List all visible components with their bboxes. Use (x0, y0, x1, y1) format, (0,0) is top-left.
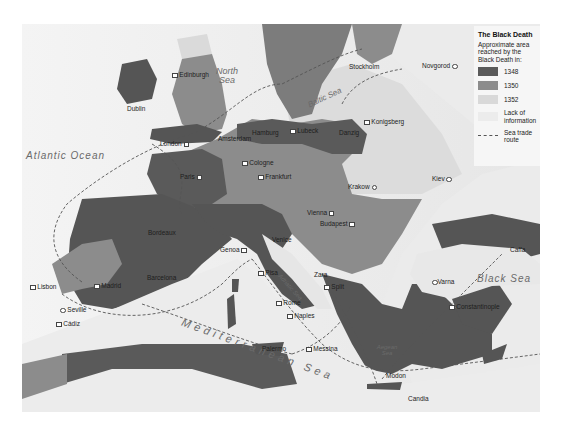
legend-title: The Black Death (478, 31, 536, 38)
city-amsterdam: Amsterdam (218, 136, 251, 143)
black-death-map: Atlantic Ocean North Sea Baltic Sea Blac… (22, 24, 540, 412)
city-lisbon: Lisbon (30, 284, 56, 291)
swatch-1350 (478, 81, 498, 90)
city-hamburg: Hamburg (252, 130, 279, 137)
city-varna: Varna (432, 279, 454, 286)
legend-item-1352: 1352 (478, 95, 536, 104)
city-edinburgh: Edinburgh (172, 72, 209, 79)
city-naples: Naples (287, 313, 315, 320)
city-cadiz: Cádiz (56, 321, 80, 328)
city-lubeck: Lubeck (290, 128, 318, 135)
city-modon: Modon (386, 373, 406, 380)
city-dublin: Dublin (127, 106, 145, 113)
city-krakow: Krakow (348, 184, 377, 191)
city-rome: Rome (276, 300, 301, 307)
city-frankfurt: Frankfurt (258, 174, 291, 181)
city-paris: Paris (180, 174, 202, 181)
city-messina: Messina (306, 346, 338, 353)
swatch-1348 (478, 67, 498, 76)
sea-label-atlantic: Atlantic Ocean (26, 151, 105, 162)
city-danzig: Danzig (339, 130, 359, 137)
city-constantinople: Constantinople (449, 304, 500, 311)
city-london: London (160, 141, 189, 148)
city-bordeaux: Bordeaux (148, 230, 176, 237)
city-venice: Venice (272, 237, 292, 244)
city-candia: Candia (408, 396, 429, 403)
city-kiev: Kiev (432, 176, 452, 183)
legend-item-1348: 1348 (478, 67, 536, 76)
city-vienna: Vienna (307, 210, 334, 217)
city-pisa: Pisa (258, 270, 278, 277)
map-legend: The Black Death Approximate area reached… (474, 26, 540, 166)
sea-label-black: Black Sea (477, 274, 531, 285)
city-stockholm: Stockholm (349, 64, 379, 71)
city-seville: Seville (60, 307, 86, 314)
city-konigsberg: Konigsberg (364, 119, 404, 126)
city-novgorod: Novgorod (422, 63, 458, 70)
legend-item-1350: 1350 (478, 81, 536, 90)
sea-label-north: North Sea (212, 67, 242, 86)
swatch-lack-of-info (478, 112, 498, 121)
city-madrid: Madrid (94, 283, 121, 290)
sea-label-aegean: Aegean Sea (375, 344, 399, 357)
city-zara: Zara (314, 272, 327, 279)
city-split: Split (324, 284, 344, 291)
city-palermo: Palermo (262, 346, 286, 353)
legend-description: Approximate area reached by the Black De… (478, 41, 536, 63)
city-caffa: Caffa (510, 247, 525, 254)
legend-item-sea-route: Sea trade route (478, 129, 536, 143)
city-budapest: Budapest (320, 221, 355, 228)
city-barcelona: Barcelona (147, 275, 176, 282)
legend-item-lack-of-info: Lack of information (478, 109, 536, 123)
city-cologne: Cologne (242, 160, 274, 167)
city-genoa: Genoa (220, 247, 247, 254)
dashed-line-icon (478, 135, 498, 136)
swatch-1352 (478, 95, 498, 104)
